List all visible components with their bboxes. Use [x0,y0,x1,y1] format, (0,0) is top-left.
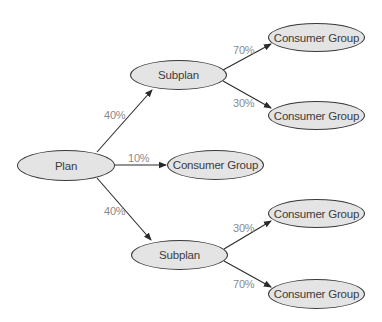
node-label: Subplan [159,249,200,261]
node-label: Consumer Group [274,208,359,220]
edge-label-subplan-top-consumer-group-2: 30% [233,97,254,109]
consumer-group-node-2: Consumer Group [268,101,365,130]
edge-label-subplan-bottom-consumer-group-4: 30% [233,222,254,234]
edge-label-subplan-top-consumer-group-1: 70% [233,44,254,56]
edge-label-plan-consumer-group-3: 10% [128,152,149,164]
consumer-group-node-5: Consumer Group [268,279,365,309]
edge-plan-subplan-top [97,90,152,152]
consumer-group-node-3: Consumer Group [167,150,264,180]
node-label: Consumer Group [173,159,258,171]
edge-label-subplan-bottom-consumer-group-5: 70% [233,278,254,290]
node-label: Subplan [158,69,199,81]
edge-label-plan-subplan-top: 40% [104,109,125,121]
node-label: Plan [55,160,77,172]
subplan-node-bottom: Subplan [131,240,228,270]
subplan-node-top: Subplan [130,60,227,90]
resource-plan-diagram: Plan Subplan Subplan Consumer Group Cons… [0,0,382,322]
node-label: Consumer Group [274,110,359,122]
node-label: Consumer Group [274,32,359,44]
consumer-group-node-4: Consumer Group [268,199,365,228]
node-label: Consumer Group [274,288,359,300]
edge-label-plan-subplan-bottom: 40% [104,205,125,217]
plan-node: Plan [17,150,115,181]
consumer-group-node-1: Consumer Group [268,23,365,52]
